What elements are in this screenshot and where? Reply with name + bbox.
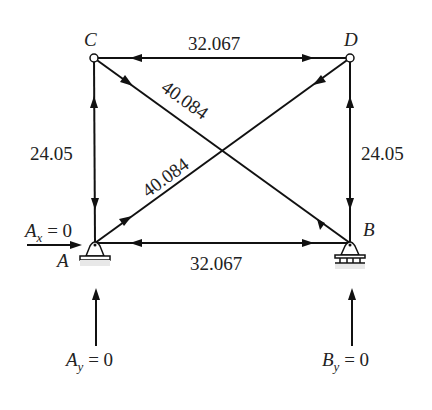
- force-label-bottom: 32.067: [190, 253, 242, 274]
- arrow-icon: [317, 219, 325, 230]
- support-a-pin: [80, 242, 110, 266]
- arrow-icon: [90, 96, 98, 108]
- arrow-icon: [302, 239, 314, 247]
- reaction-label-by: By = 0: [322, 349, 369, 374]
- node-label-d: D: [343, 29, 358, 50]
- reaction-label-ax: Ax = 0: [23, 220, 72, 245]
- node-label-c: C: [84, 29, 97, 50]
- arrow-icon: [346, 96, 354, 108]
- arrow-icon: [302, 54, 314, 62]
- force-label-diag-cb: 40.084: [158, 76, 213, 124]
- force-label-right: 24.05: [361, 143, 404, 164]
- arrow-icon: [130, 239, 142, 247]
- member-ac: [94, 58, 95, 243]
- arrow-icon: [348, 288, 356, 300]
- arrow-icon: [91, 198, 99, 210]
- arrow-icon: [130, 54, 142, 62]
- joint-d: [346, 54, 354, 62]
- arrow-icon: [92, 288, 100, 300]
- force-label-left: 24.05: [30, 143, 73, 164]
- arrow-icon: [120, 75, 133, 86]
- support-b-roller: [335, 242, 365, 269]
- node-label-a: A: [55, 250, 69, 271]
- arrow-icon: [346, 198, 354, 210]
- truss-diagram: C D A B 32.067 32.067 24.05 24.05 40.084…: [0, 0, 432, 410]
- joint-c: [90, 54, 98, 62]
- force-label-top: 32.067: [188, 33, 240, 54]
- reaction-label-ay: Ay = 0: [64, 349, 113, 374]
- arrow-icon: [70, 241, 82, 249]
- node-label-b: B: [363, 219, 375, 240]
